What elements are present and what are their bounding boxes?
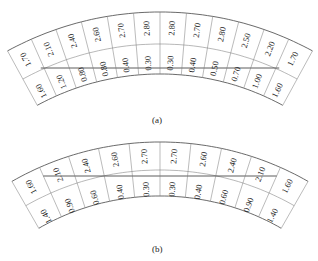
lower-value: 0.80 xyxy=(75,66,89,83)
upper-value: 2.10 xyxy=(51,166,66,183)
upper-value: 2.80 xyxy=(215,26,228,43)
upper-value: 2.60 xyxy=(90,26,103,43)
upper-value: 1.70 xyxy=(285,50,301,68)
upper-value: 2.40 xyxy=(79,157,92,174)
lower-value: 1.60 xyxy=(269,81,285,99)
upper-value: 1.60 xyxy=(23,178,39,196)
lower-value: 0.40 xyxy=(120,57,132,73)
upper-value: 2.70 xyxy=(191,22,203,38)
lower-value: 0.80 xyxy=(97,61,110,78)
upper-value: 2.40 xyxy=(65,33,79,50)
figure-a: 1.701.602.101.202.400.802.600.802.700.40… xyxy=(8,12,313,105)
upper-value: 2.70 xyxy=(115,23,127,39)
caption-a: (a) xyxy=(152,115,162,125)
lower-value: 1.40 xyxy=(38,208,54,226)
lower-value: 0.40 xyxy=(186,57,198,73)
diagram-canvas: 1.701.602.101.202.400.802.600.802.700.40… xyxy=(0,0,318,261)
lower-value: 0.90 xyxy=(62,197,77,214)
lower-value: 1.20 xyxy=(54,73,69,91)
upper-value: 1.60 xyxy=(279,177,295,195)
radial-gridline xyxy=(129,144,135,198)
lower-value: 0.30 xyxy=(143,56,154,71)
lower-value: 0.30 xyxy=(167,182,178,197)
upper-value: 2.10 xyxy=(253,165,268,182)
upper-value: 2.20 xyxy=(262,40,277,58)
upper-value: 2.80 xyxy=(141,21,152,36)
lower-value: 0.60 xyxy=(88,189,101,206)
lower-value: 0.90 xyxy=(241,196,256,213)
lower-value: 0.40 xyxy=(114,184,126,200)
upper-value: 2.40 xyxy=(225,157,238,174)
lower-value: 0.60 xyxy=(217,189,230,206)
lower-value: 0.30 xyxy=(165,56,176,71)
upper-value: 1.70 xyxy=(18,51,34,69)
figure-b: 1.601.402.100.902.400.602.600.402.700.30… xyxy=(12,142,308,228)
caption-b: (b) xyxy=(152,244,163,254)
lower-value: 0.40 xyxy=(192,184,204,200)
lower-value: 0.50 xyxy=(208,60,221,77)
radial-gridline xyxy=(134,13,139,75)
lower-value: 1.40 xyxy=(264,207,280,225)
upper-value: 2.60 xyxy=(197,151,209,167)
upper-value: 2.80 xyxy=(166,21,177,36)
upper-value: 2.70 xyxy=(168,149,179,164)
inner-arc xyxy=(37,74,282,105)
radial-gridline xyxy=(181,13,186,75)
upper-value: 2.70 xyxy=(139,149,150,164)
upper-value: 2.50 xyxy=(239,32,253,49)
radial-gridline xyxy=(185,144,191,198)
upper-value: 2.60 xyxy=(109,151,121,167)
lower-value: 0.30 xyxy=(141,182,152,197)
lower-value: 1.60 xyxy=(33,82,49,100)
upper-value: 2.10 xyxy=(41,41,56,59)
lower-value: 1.00 xyxy=(249,72,264,90)
